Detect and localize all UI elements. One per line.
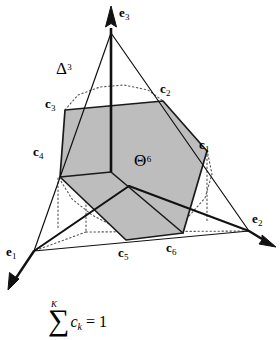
axis-e2-group [249,231,276,247]
label-simplex-delta3: Δ3 [56,60,72,77]
label-polytope-theta6: Θ6 [134,152,151,169]
simplex-diagram [0,0,280,340]
figure-canvas: e3 e1 e2 Δ3 Θ6 c1 c2 c3 c4 c5 c6 K ∑ ck … [0,0,280,340]
label-c5: c5 [118,246,128,262]
axis-e3-arrowhead [106,6,117,27]
label-e2: e2 [252,212,262,228]
axis-e2-line [249,231,262,239]
caption-formula: K ∑ ck = 1 [48,300,107,333]
summation-symbol: K ∑ [48,300,69,333]
axis-e2-arrowhead [259,235,276,247]
label-c2: c2 [160,82,170,98]
label-c6: c6 [166,241,176,257]
label-e3: e3 [119,6,129,22]
label-c4: c4 [33,145,43,161]
label-c1: c1 [199,138,209,154]
label-c3: c3 [45,97,55,113]
summand-expression: ck = 1 [70,314,107,332]
axis-e1-line [16,251,34,278]
label-e1: e1 [6,245,16,261]
sum-sigma-glyph: ∑ [48,307,69,333]
